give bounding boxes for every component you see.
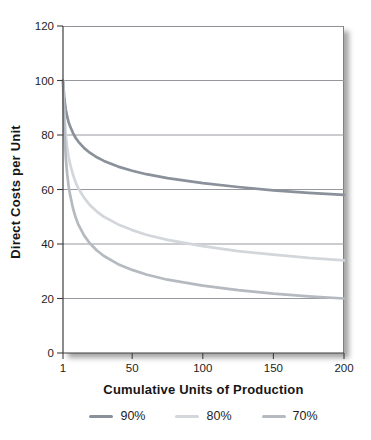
y-tick-label-40: 40	[22, 238, 54, 250]
y-tick-label-80: 80	[22, 129, 54, 141]
legend-swatch-icon	[175, 415, 199, 418]
series-line-80pct	[63, 81, 344, 261]
x-tick-label-100: 100	[181, 362, 225, 374]
x-tick-label-50: 50	[110, 362, 154, 374]
x-tick-label-1: 1	[41, 362, 85, 374]
y-tick-label-60: 60	[22, 184, 54, 196]
legend-swatch-icon	[262, 415, 286, 418]
learning-curve-chart: Direct Costs per Unit Cumulative Units o…	[0, 0, 371, 440]
y-tick-label-120: 120	[22, 20, 54, 32]
y-axis-title: Direct Costs per Unit	[8, 125, 23, 259]
series-line-90pct	[63, 81, 344, 195]
chart-canvas	[0, 0, 371, 440]
y-tick-label-0: 0	[22, 347, 54, 359]
legend-item-90pct: 90%	[89, 409, 145, 423]
x-axis-title: Cumulative Units of Production	[63, 382, 344, 397]
x-tick-label-150: 150	[251, 362, 295, 374]
legend-item-80pct: 80%	[175, 409, 231, 423]
y-tick-label-100: 100	[22, 75, 54, 87]
legend-label: 80%	[206, 409, 231, 423]
legend-label: 70%	[293, 409, 318, 423]
legend-label: 90%	[120, 409, 145, 423]
legend-item-70pct: 70%	[262, 409, 318, 423]
y-tick-label-20: 20	[22, 293, 54, 305]
x-tick-label-200: 200	[322, 362, 366, 374]
legend-swatch-icon	[89, 415, 113, 418]
legend: 90%80%70%	[63, 409, 344, 423]
